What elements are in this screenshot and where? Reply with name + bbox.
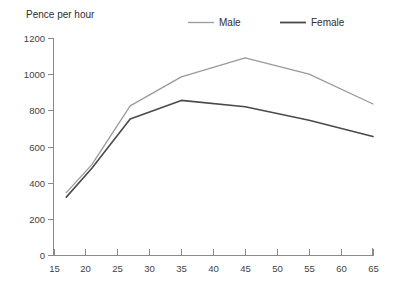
legend-label-male: Male xyxy=(219,17,241,28)
chart-series xyxy=(66,58,373,197)
x-axis: 1520253035404550556065 xyxy=(49,249,379,274)
x-axis-tick-label: 35 xyxy=(176,263,187,274)
y-axis-tick-label: 1000 xyxy=(24,69,45,80)
x-axis-tick-label: 45 xyxy=(240,263,251,274)
series-line-female xyxy=(66,100,373,197)
legend-label-female: Female xyxy=(311,17,345,28)
x-axis-tick-label: 50 xyxy=(272,263,283,274)
chart-container: Pence per hour MaleFemale 02004006008001… xyxy=(0,0,395,301)
y-axis-tick-label: 400 xyxy=(29,178,45,189)
y-axis-tick-label: 200 xyxy=(29,214,45,225)
y-axis-tick-label: 800 xyxy=(29,105,45,116)
x-axis-tick-label: 30 xyxy=(144,263,155,274)
x-axis-tick-label: 20 xyxy=(80,263,91,274)
y-axis-tick-label: 600 xyxy=(29,142,45,153)
x-axis-tick-label: 25 xyxy=(112,263,123,274)
y-axis: 020040060080010001200 xyxy=(24,33,54,261)
x-axis-tick-label: 40 xyxy=(208,263,219,274)
x-axis-tick-label: 65 xyxy=(368,263,379,274)
x-axis-tick-label: 55 xyxy=(304,263,315,274)
y-axis-tick-label: 0 xyxy=(40,250,45,261)
x-axis-tick-label: 15 xyxy=(49,263,60,274)
x-axis-tick-label: 60 xyxy=(336,263,347,274)
y-axis-tick-label: 1200 xyxy=(24,33,45,44)
chart-legend: MaleFemale xyxy=(188,17,345,28)
line-chart: Pence per hour MaleFemale 02004006008001… xyxy=(0,0,395,301)
y-axis-title: Pence per hour xyxy=(26,9,95,20)
